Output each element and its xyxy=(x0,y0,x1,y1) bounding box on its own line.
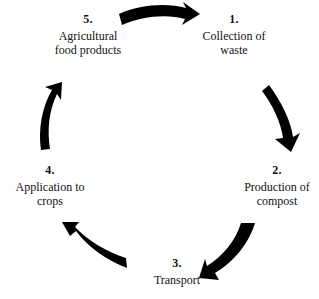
arrow-left-up-icon xyxy=(40,82,62,150)
stage-label: Application to crops xyxy=(2,180,98,208)
stage-transport: 3. Transport xyxy=(136,256,218,287)
stage-agricultural-food-products: 5. Agricultural food products xyxy=(33,12,143,57)
stage-number: 1. xyxy=(188,12,280,26)
stage-label: Collection of waste xyxy=(188,29,280,57)
stage-application-to-crops: 4. Application to crops xyxy=(2,163,98,208)
circular-process-diagram: 1. Collection of waste 2. Production of … xyxy=(0,0,319,299)
stage-number: 2. xyxy=(234,163,319,177)
arrow-right-down-icon xyxy=(262,85,300,152)
stage-number: 5. xyxy=(33,12,143,26)
stage-number: 3. xyxy=(136,256,218,270)
arrow-bottom-left-icon xyxy=(62,222,127,268)
stage-production-of-compost: 2. Production of compost xyxy=(234,163,319,208)
stage-collection-of-waste: 1. Collection of waste xyxy=(188,12,280,57)
stage-label: Transport xyxy=(136,273,218,287)
stage-label: Production of compost xyxy=(234,180,319,208)
stage-number: 4. xyxy=(2,163,98,177)
stage-label: Agricultural food products xyxy=(33,29,143,57)
